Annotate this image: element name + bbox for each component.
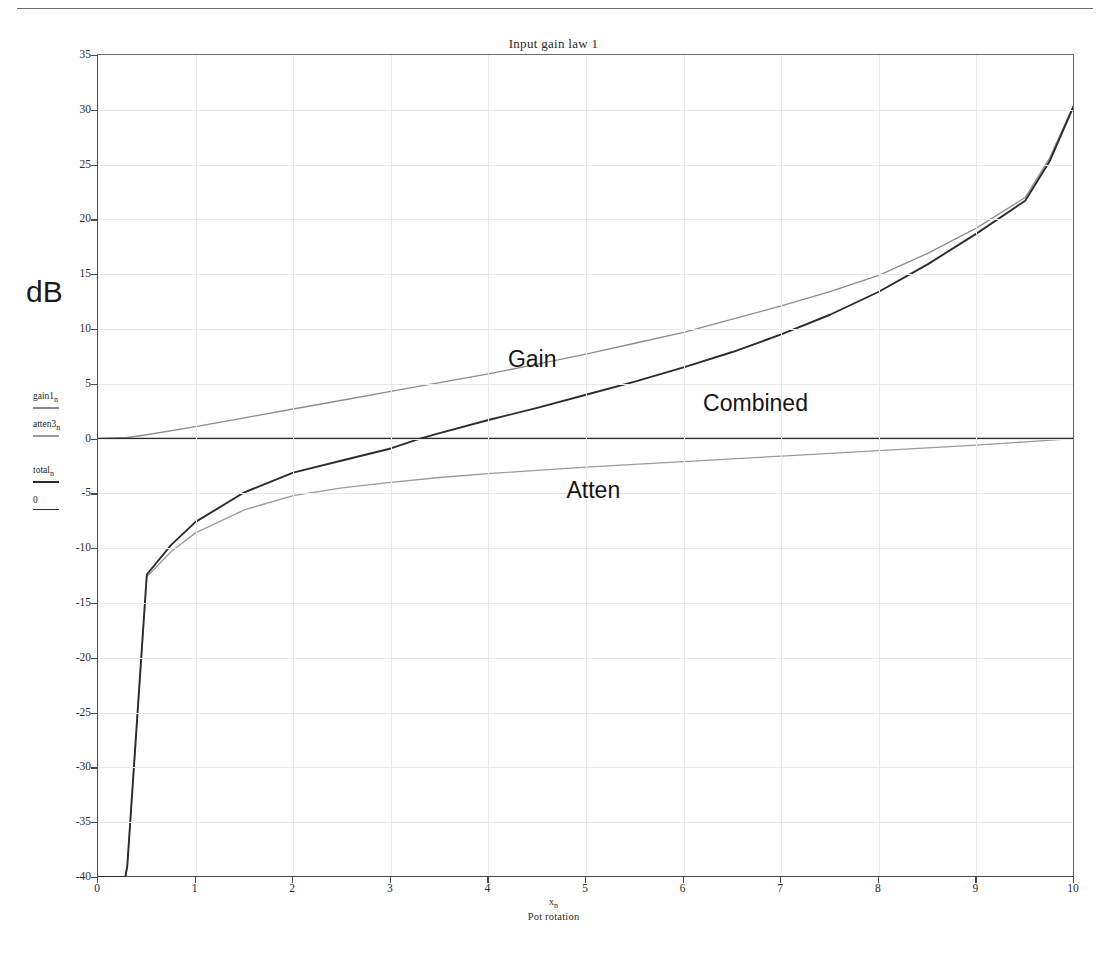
- x-tick-label: 7: [765, 882, 795, 894]
- x-tick-label: 3: [375, 882, 405, 894]
- legend-item-swatch: [33, 435, 59, 436]
- y-tick-mark: [91, 658, 97, 659]
- y-tick-mark: [91, 548, 97, 549]
- y-tick-label: 30: [51, 103, 91, 115]
- legend-item-label: gain1n: [33, 392, 91, 404]
- legend-item-total: totaln: [33, 466, 91, 483]
- legend-item-atten3: atten3n: [33, 420, 91, 437]
- y-tick-label: -15: [51, 596, 91, 608]
- annotation-gain: Gain: [508, 346, 557, 373]
- y-tick-mark: [91, 274, 97, 275]
- annotation-combined: Combined: [703, 390, 808, 417]
- legend-item-gain1: gain1n: [33, 392, 91, 409]
- legend-item-swatch: [33, 509, 59, 510]
- x-tick-label: 5: [570, 882, 600, 894]
- x-axis-symbol-subscript: n: [554, 901, 558, 910]
- x-tick-label: 10: [1058, 882, 1088, 894]
- legend-item-swatch: [33, 481, 59, 482]
- y-tick-label: -35: [51, 815, 91, 827]
- y-tick-label: -25: [51, 706, 91, 718]
- y-tick-mark: [91, 55, 97, 56]
- gridline-vertical: [196, 55, 197, 876]
- y-tick-label: -30: [51, 760, 91, 772]
- y-tick-label: 20: [51, 212, 91, 224]
- gridline-vertical: [684, 55, 685, 876]
- x-tick-mark: [780, 877, 781, 883]
- y-tick-mark: [91, 219, 97, 220]
- legend-item-subscript: n: [50, 469, 54, 478]
- x-tick-label: 9: [960, 882, 990, 894]
- legend-item-subscript: n: [54, 395, 58, 404]
- x-tick-mark: [97, 877, 98, 883]
- x-tick-label: 2: [277, 882, 307, 894]
- gridline-vertical: [879, 55, 880, 876]
- gridline-vertical: [391, 55, 392, 876]
- y-axis-label: dB: [26, 275, 63, 309]
- x-tick-mark: [390, 877, 391, 883]
- x-tick-label: 8: [863, 882, 893, 894]
- legend-item-label: 0: [33, 496, 91, 506]
- y-tick-mark: [91, 329, 97, 330]
- x-tick-mark: [195, 877, 196, 883]
- gridline-vertical: [293, 55, 294, 876]
- gridline-vertical: [976, 55, 977, 876]
- scanned-page: Input gain law 1 dB GainCombinedAtten -4…: [0, 0, 1107, 959]
- y-tick-mark: [91, 822, 97, 823]
- x-tick-mark: [487, 877, 488, 883]
- x-tick-label: 6: [668, 882, 698, 894]
- x-tick-mark: [292, 877, 293, 883]
- annotation-atten: Atten: [567, 477, 621, 504]
- y-tick-label: -10: [51, 541, 91, 553]
- chart-title: Input gain law 1: [0, 36, 1107, 52]
- y-tick-label: 5: [51, 377, 91, 389]
- y-tick-label: 10: [51, 322, 91, 334]
- y-tick-mark: [91, 384, 97, 385]
- plot-area: GainCombinedAtten: [97, 55, 1073, 877]
- x-tick-label: 1: [180, 882, 210, 894]
- x-axis-label: Pot rotation: [0, 911, 1107, 922]
- y-tick-mark: [91, 493, 97, 494]
- x-tick-label: 4: [472, 882, 502, 894]
- x-tick-mark: [975, 877, 976, 883]
- x-tick-label: 0: [82, 882, 112, 894]
- legend-item-label: atten3n: [33, 420, 91, 432]
- x-axis-symbol: xn: [0, 896, 1107, 910]
- x-tick-mark: [878, 877, 879, 883]
- y-tick-label: -40: [51, 870, 91, 882]
- y-tick-label: 25: [51, 158, 91, 170]
- legend-item-swatch: [33, 407, 59, 408]
- legend-item-label: totaln: [33, 466, 91, 478]
- legend-item-0: 0: [33, 496, 91, 510]
- y-tick-mark: [91, 713, 97, 714]
- gridline-vertical: [781, 55, 782, 876]
- y-tick-mark: [91, 165, 97, 166]
- y-tick-mark: [91, 767, 97, 768]
- x-tick-mark: [585, 877, 586, 883]
- y-tick-mark: [91, 439, 97, 440]
- gridline-vertical: [586, 55, 587, 876]
- plot-frame-right: [1073, 54, 1074, 877]
- y-tick-mark: [91, 603, 97, 604]
- legend-item-subscript: n: [56, 423, 60, 432]
- x-tick-mark: [1073, 877, 1074, 883]
- y-tick-mark: [91, 110, 97, 111]
- page-top-rule: [17, 8, 1093, 9]
- y-tick-label: 15: [51, 267, 91, 279]
- gridline-vertical: [488, 55, 489, 876]
- y-tick-label: -20: [51, 651, 91, 663]
- y-tick-label: 35: [51, 48, 91, 60]
- x-tick-mark: [683, 877, 684, 883]
